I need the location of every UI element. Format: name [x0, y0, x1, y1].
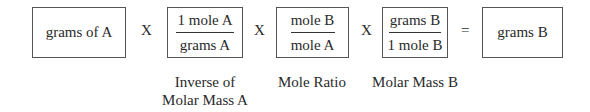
denominator: mole A [291, 36, 335, 54]
fraction-bar [291, 32, 335, 34]
label-line-2: Molar Mass A [150, 91, 260, 109]
fraction-bar [176, 32, 234, 34]
numerator: grams B [390, 11, 440, 29]
label-inverse-molar-mass-a: Inverse of Molar Mass A [150, 73, 260, 109]
label-line-1: Inverse of [150, 73, 260, 91]
multiply-operator-2: X [254, 22, 265, 39]
result-text: grams B [497, 24, 547, 41]
denominator: 1 mole B [388, 36, 443, 54]
start-text: grams of A [46, 24, 113, 41]
fraction-bar [389, 32, 441, 34]
label-mole-ratio: Mole Ratio [262, 73, 362, 91]
numerator: mole B [291, 11, 335, 29]
factor-box-molar-mass-b: grams B 1 mole B [382, 7, 448, 58]
factor-box-inverse-molar-mass-a: 1 mole A grams A [167, 7, 243, 58]
equals-operator: = [461, 22, 469, 39]
result-box: grams B [482, 7, 563, 58]
label-line-1: Molar Mass B [360, 73, 470, 91]
numerator: 1 mole A [178, 11, 233, 29]
factor-box-mole-ratio: mole B mole A [276, 7, 349, 58]
label-line-1: Mole Ratio [262, 73, 362, 91]
label-molar-mass-b: Molar Mass B [360, 73, 470, 91]
start-box: grams of A [32, 7, 126, 58]
multiply-operator-3: X [361, 22, 372, 39]
denominator: grams A [180, 36, 230, 54]
multiply-operator-1: X [141, 22, 152, 39]
